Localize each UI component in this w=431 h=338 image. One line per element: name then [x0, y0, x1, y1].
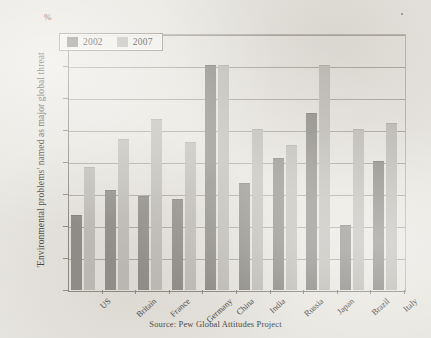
x-axis-tick-mark	[303, 290, 304, 294]
bar-italy-2002	[373, 161, 384, 290]
bar-group	[337, 34, 371, 290]
bar-group	[102, 34, 136, 290]
bar-india-2007	[252, 129, 263, 290]
bar-france-2007	[151, 119, 162, 290]
legend-entry-2007: 2007	[117, 37, 153, 47]
x-axis-tick-mark	[169, 290, 170, 294]
bar-group	[236, 34, 270, 290]
bar-group	[135, 34, 169, 290]
bar-us-2007	[84, 167, 95, 290]
bar-group	[270, 34, 304, 290]
bar-italy-2007	[386, 123, 397, 290]
bar-brazil-2007	[353, 129, 364, 290]
chart-figure: % 'Environmental problems' named as majo…	[0, 0, 431, 338]
bar-us-2002	[71, 215, 82, 290]
percent-unit-label: %	[44, 12, 52, 22]
bar-germany-2007	[185, 142, 196, 290]
x-axis-tick-mark	[404, 290, 405, 294]
source-caption: Source: Pew Global Attitudes Project	[0, 319, 431, 329]
bar-india-2002	[239, 183, 250, 290]
x-axis-tick-mark	[370, 290, 371, 294]
bar-britain-2007	[118, 139, 129, 290]
legend-swatch-2007-icon	[117, 37, 128, 47]
legend-label-2007: 2007	[133, 37, 153, 47]
bar-china-2007	[218, 65, 229, 290]
y-axis-tick-mark	[63, 290, 68, 291]
y-axis-title: 'Environmental problems' named as major …	[36, 29, 46, 291]
legend-label-2002: 2002	[83, 37, 103, 47]
x-axis-tick-mark	[202, 290, 203, 294]
x-axis-label-india: India	[267, 296, 287, 315]
x-axis-tick-mark	[102, 290, 103, 294]
x-axis-tick-mark	[236, 290, 237, 294]
bar-russia-2002	[273, 158, 284, 290]
bar-china-2002	[205, 65, 216, 290]
x-axis-tick-mark	[337, 290, 338, 294]
x-axis-label-france: France	[168, 296, 192, 319]
bar-group	[202, 34, 236, 290]
bar-japan-2007	[319, 65, 330, 290]
x-axis-label-brazil: Brazil	[369, 296, 391, 317]
x-axis-label-japan: Japan	[335, 296, 356, 316]
legend-entry-2002: 2002	[67, 37, 103, 47]
x-axis-label-us: US	[98, 296, 113, 311]
bar-group	[370, 34, 404, 290]
legend-swatch-2002-icon	[67, 37, 78, 47]
x-axis-label-italy: Italy	[401, 296, 419, 314]
bar-france-2002	[138, 196, 149, 290]
bar-brazil-2002	[340, 225, 351, 290]
x-axis-tick-mark	[270, 290, 271, 294]
paper-speck-icon	[401, 13, 403, 15]
bar-russia-2007	[286, 145, 297, 290]
bar-germany-2002	[172, 199, 183, 290]
bar-britain-2002	[105, 190, 116, 290]
bar-group	[68, 34, 102, 290]
chart-legend: 2002 2007	[59, 33, 163, 51]
x-axis-tick-mark	[135, 290, 136, 294]
bar-group	[303, 34, 337, 290]
bars-layer	[68, 34, 404, 290]
x-axis-label-russia: Russia	[302, 296, 326, 319]
x-axis-label-britain: Britain	[135, 296, 159, 319]
x-axis-label-china: China	[234, 296, 256, 317]
bar-japan-2002	[306, 113, 317, 290]
bar-group	[169, 34, 203, 290]
